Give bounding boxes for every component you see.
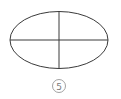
diagram-canvas: 5	[0, 0, 121, 99]
figure-label-number: 5	[56, 82, 62, 92]
